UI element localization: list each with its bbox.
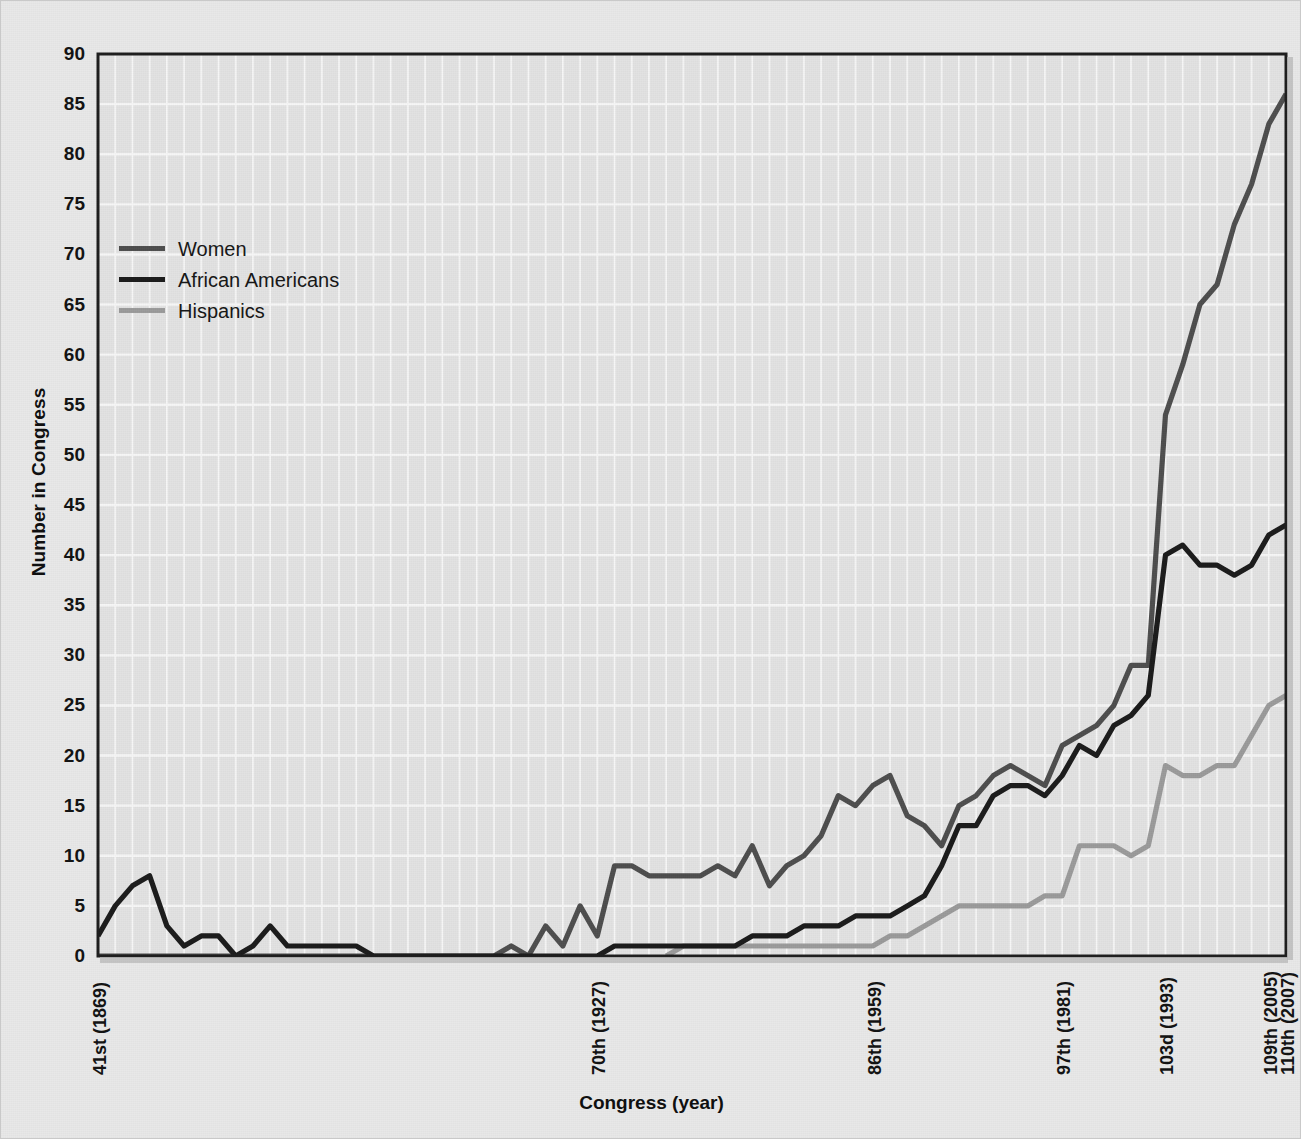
legend-item: Hispanics [119, 295, 339, 326]
legend-item: African Americans [119, 264, 339, 295]
legend-label: African Americans [178, 270, 339, 290]
legend-label: Women [178, 239, 247, 259]
chart-legend: WomenAfrican AmericansHispanics [119, 233, 339, 326]
legend-item: Women [119, 233, 339, 264]
chart-page: 051015202530354045505560657075808590 Num… [0, 0, 1301, 1139]
line-chart-plot [1, 1, 1301, 1139]
legend-label: Hispanics [178, 301, 265, 321]
legend-color-swatch [119, 308, 165, 313]
legend-color-swatch [119, 246, 165, 251]
legend-color-swatch [119, 277, 165, 282]
